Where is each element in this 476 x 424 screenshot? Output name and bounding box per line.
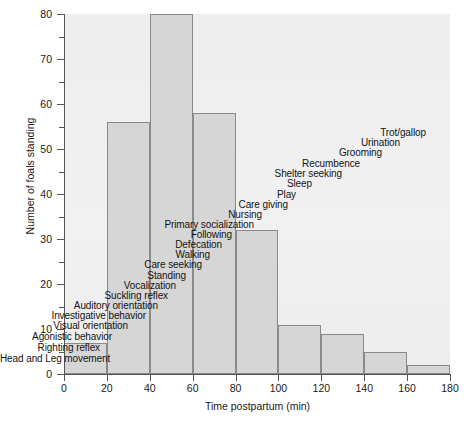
x-tick-label: 120: [301, 383, 341, 394]
x-tick: [450, 375, 451, 381]
behavior-annotation: Nursing: [0, 210, 262, 220]
bar: [236, 230, 279, 374]
behavior-annotation: Urination: [0, 138, 400, 148]
behavior-annotation: Grooming: [0, 148, 382, 158]
x-tick-label: 140: [344, 383, 384, 394]
behavior-annotation: Sleep: [0, 179, 312, 189]
x-tick: [278, 375, 279, 381]
behavior-annotation: Recumbence: [0, 159, 360, 169]
y-tick-label: 70: [0, 54, 52, 64]
behavior-annotation: Trot/gallop: [0, 128, 426, 138]
behavior-annotation: Shelter seeking: [0, 169, 342, 179]
x-tick: [236, 375, 237, 381]
x-tick: [107, 375, 108, 381]
x-axis-title: Time postpartum (min): [64, 400, 451, 412]
x-tick-label: 100: [258, 383, 298, 394]
behavior-annotation: Auditory orientation: [0, 301, 158, 311]
behavior-annotation: Investigative behavior: [0, 311, 146, 321]
chart-figure: 01020304050607080 0204060801001201401601…: [0, 0, 476, 424]
x-tick: [150, 375, 151, 381]
x-tick-label: 0: [44, 383, 84, 394]
behavior-annotation: Suckling reflex: [0, 291, 168, 301]
y-tick-minor: [59, 82, 64, 83]
x-tick-label: 40: [130, 383, 170, 394]
behavior-annotation: Agonistic behavior: [0, 332, 112, 342]
x-tick: [364, 375, 365, 381]
behavior-annotation: Vocalization: [0, 281, 176, 291]
bar: [407, 365, 450, 374]
behavior-annotation: Head and Leg movement: [0, 354, 108, 364]
y-tick: [57, 59, 64, 60]
y-tick: [57, 374, 64, 375]
x-tick: [321, 375, 322, 381]
x-tick-label: 20: [87, 383, 127, 394]
x-tick-label: 80: [216, 383, 256, 394]
y-tick-label: 0: [0, 369, 52, 379]
x-tick: [64, 375, 65, 381]
x-tick-label: 180: [430, 383, 470, 394]
x-tick-label: 60: [173, 383, 213, 394]
bar: [278, 325, 321, 375]
x-tick: [193, 375, 194, 381]
behavior-annotation: Play: [0, 190, 296, 200]
behavior-annotation: Primary socialization: [0, 220, 254, 230]
y-tick-minor: [59, 37, 64, 38]
bar: [321, 334, 364, 375]
y-axis-title: Number of foals standing: [24, 76, 36, 276]
behavior-annotation: Visual orientation: [0, 321, 128, 331]
x-tick: [407, 375, 408, 381]
x-axis-line: [64, 374, 451, 375]
behavior-annotation: Care giving: [0, 200, 288, 210]
y-tick: [57, 104, 64, 105]
y-tick-label: 80: [0, 9, 52, 19]
bar: [364, 352, 407, 375]
behavior-annotation: Righting reflex: [0, 343, 100, 353]
x-tick-label: 160: [387, 383, 427, 394]
y-tick: [57, 14, 64, 15]
